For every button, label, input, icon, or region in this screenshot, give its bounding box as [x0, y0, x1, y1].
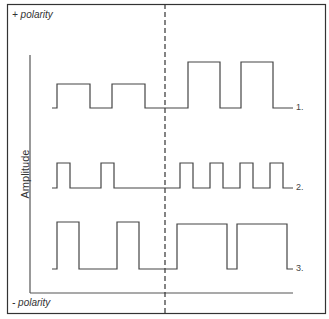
- amplitude-axis-label: Amplitude: [19, 144, 31, 204]
- waveform-row-3: [52, 222, 293, 269]
- pulse-diagram: [0, 0, 329, 319]
- row-label-3: 3.: [296, 263, 304, 273]
- waveforms: [52, 62, 293, 269]
- row-label-2: 2.: [296, 182, 304, 192]
- waveform-row-1: [52, 62, 293, 108]
- negative-polarity-label: - polarity: [12, 297, 50, 308]
- waveform-row-2: [52, 163, 293, 188]
- frame-border: [8, 5, 326, 314]
- positive-polarity-label: + polarity: [12, 9, 53, 20]
- row-label-1: 1.: [296, 102, 304, 112]
